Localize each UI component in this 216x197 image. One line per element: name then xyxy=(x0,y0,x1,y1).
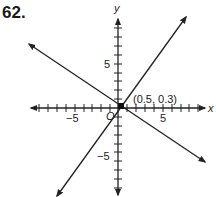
x-tick-label-pos: 5 xyxy=(160,112,166,124)
intersection-point-marker xyxy=(118,103,124,109)
y-axis-label: y xyxy=(113,2,121,14)
x-tick-label-neg: −5 xyxy=(66,112,79,124)
intersection-point-label: (0.5, 0.3) xyxy=(133,93,177,105)
origin-label: O xyxy=(106,110,115,122)
y-tick-label-pos: 5 xyxy=(104,58,110,70)
y-tick-label-neg: −5 xyxy=(97,150,110,162)
coordinate-graph: y x O 5 −5 −5 5 (0.5, 0.3) xyxy=(0,0,216,197)
x-axis-label: x xyxy=(207,102,214,114)
